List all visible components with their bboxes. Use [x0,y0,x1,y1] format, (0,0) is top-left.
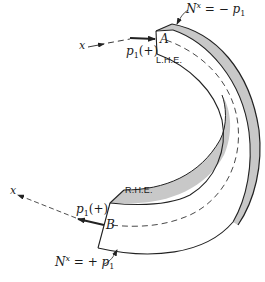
top-x-axis-arrow [88,44,104,47]
n-superscript: x [197,1,202,10]
p-symbol: p [126,44,134,58]
p-sign: (+) [89,202,108,216]
point-a-label: A [160,33,169,45]
top-x-axis-dashed [108,39,130,43]
curved-element-diagram: Nx = − p1 x p1(+) A L.H.E. R.H.E. x p1(+… [0,0,265,282]
n-rhs: = − p [205,2,240,16]
n-subscript: 1 [240,9,245,18]
top-load-label: p1(+) [126,45,158,57]
bottom-x-axis-label: x [10,185,16,196]
bottom-load-arrow [78,219,104,225]
n-rhs: = + p [74,255,109,269]
top-x-axis-label: x [79,40,85,51]
inner-front-edge [110,54,223,204]
bottom-x-axis-dashed [18,195,76,218]
bottom-normal-force-label: Nx = + p1 [55,256,114,268]
diagram-drawing [0,0,265,282]
point-b-label: B [106,219,115,231]
top-normal-force-label: Nx = − p1 [186,3,245,15]
p-symbol: p [76,202,84,216]
n-symbol: N [186,2,197,16]
top-load-arrow [130,38,155,39]
n-symbol: N [55,255,66,269]
right-hand-end-label: R.H.E. [125,186,153,195]
left-hand-end-label: L.H.E. [156,56,182,65]
bottom-load-label: p1(+) [76,203,108,215]
n-subscript: 1 [109,262,114,271]
n-superscript: x [66,254,71,263]
